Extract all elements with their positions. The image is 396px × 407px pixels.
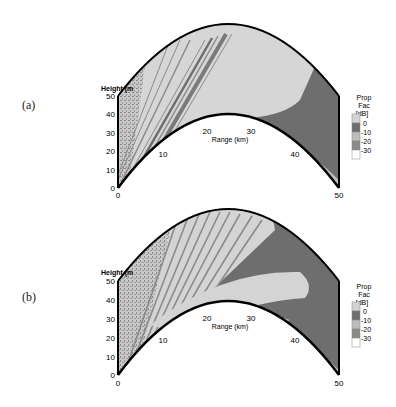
svg-text:40: 40 [106, 296, 115, 305]
svg-text:50: 50 [335, 191, 344, 200]
svg-text:-20: -20 [361, 138, 371, 145]
svg-text:10: 10 [159, 150, 168, 159]
svg-text:40: 40 [291, 336, 300, 345]
svg-text:20: 20 [203, 127, 212, 136]
svg-text:0: 0 [116, 191, 121, 200]
svg-text:Height (m: Height (m [101, 269, 133, 277]
svg-text:Range (km): Range (km) [212, 136, 249, 144]
chart-panel-b: 50 40 30 20 10 0 Height (m 0 10 20 30 40… [0, 200, 396, 407]
svg-text:40: 40 [106, 110, 115, 119]
svg-text:Fac: Fac [358, 291, 370, 298]
svg-text:-20: -20 [361, 326, 371, 333]
svg-text:50: 50 [106, 92, 115, 101]
svg-text:30: 30 [106, 315, 115, 324]
svg-text:50: 50 [106, 277, 115, 286]
chart-panel-a: 50 40 30 20 10 0 Height (m 0 10 20 30 40… [0, 0, 396, 205]
svg-text:30: 30 [247, 127, 256, 136]
svg-text:30: 30 [106, 129, 115, 138]
svg-text:20: 20 [203, 314, 212, 323]
svg-text:-30: -30 [361, 147, 371, 154]
svg-text:20: 20 [106, 334, 115, 343]
svg-text:40: 40 [291, 150, 300, 159]
svg-text:Fac: Fac [358, 102, 370, 109]
svg-text:10: 10 [106, 353, 115, 362]
svg-text:Prop: Prop [357, 94, 372, 102]
svg-text:0: 0 [363, 120, 367, 127]
svg-text:Range (km): Range (km) [212, 323, 249, 331]
svg-text:10: 10 [106, 166, 115, 175]
svg-text:-30: -30 [361, 335, 371, 342]
svg-text:0: 0 [363, 308, 367, 315]
svg-text:10: 10 [159, 336, 168, 345]
svg-text:30: 30 [247, 314, 256, 323]
svg-text:0: 0 [116, 379, 121, 388]
svg-text:50: 50 [335, 379, 344, 388]
svg-text:Height (m: Height (m [101, 85, 133, 93]
svg-text:20: 20 [106, 147, 115, 156]
svg-text:-10: -10 [361, 129, 371, 136]
svg-text:-10: -10 [361, 317, 371, 324]
svg-text:Prop: Prop [357, 283, 372, 291]
